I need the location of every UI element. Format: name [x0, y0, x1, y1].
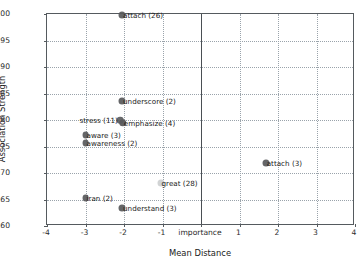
gridline-vertical — [278, 14, 279, 224]
y-tick-label: 1.00 — [0, 9, 10, 18]
data-point-label: awareness (2) — [87, 138, 138, 147]
gridline-vertical — [317, 14, 318, 224]
x-tick-mark — [317, 224, 318, 227]
gridline-vertical — [240, 14, 241, 224]
y-tick-mark — [44, 94, 47, 95]
gridline-horizontal — [47, 173, 353, 174]
x-tick-label: 3 — [313, 228, 318, 237]
data-point-label: attach (3) — [267, 159, 302, 168]
y-tick-mark — [44, 200, 47, 201]
y-tick-mark — [44, 147, 47, 148]
data-point-label: emphasize (4) — [124, 118, 175, 127]
x-tick-mark — [355, 224, 356, 227]
y-tick-label: 0.85 — [0, 88, 10, 97]
x-tick-mark — [240, 224, 241, 227]
data-point-label: great (28) — [162, 178, 198, 187]
x-tick-mark — [86, 224, 87, 227]
x-tick-label: -4 — [42, 228, 50, 237]
x-tick-label: 4 — [352, 228, 357, 237]
x-tick-label: 2 — [275, 228, 280, 237]
data-point-label: iran (2) — [87, 193, 113, 202]
y-tick-label: 0.60 — [0, 221, 10, 230]
x-tick-mark — [201, 224, 202, 227]
plot-area: attach (26)underscore (2)emphasize (4)st… — [46, 13, 354, 225]
x-tick-label: -1 — [158, 228, 166, 237]
y-tick-label: 0.90 — [0, 62, 10, 71]
x-tick-mark — [47, 224, 48, 227]
y-tick-mark — [44, 120, 47, 121]
vertical-reference-line — [201, 14, 202, 224]
y-tick-label: 0.70 — [0, 168, 10, 177]
x-tick-label: 1 — [236, 228, 241, 237]
y-tick-mark — [44, 14, 47, 15]
y-tick-mark — [44, 173, 47, 174]
gridline-horizontal — [47, 94, 353, 95]
y-tick-label: 0.75 — [0, 141, 10, 150]
x-tick-label: -2 — [119, 228, 127, 237]
x-axis-title: Mean Distance — [169, 248, 231, 258]
gridline-horizontal — [47, 41, 353, 42]
x-tick-mark — [124, 224, 125, 227]
y-tick-mark — [44, 67, 47, 68]
x-tick-mark — [278, 224, 279, 227]
y-tick-label: 0.80 — [0, 115, 10, 124]
x-tick-label-origin: importance — [178, 228, 221, 237]
gridline-horizontal — [47, 67, 353, 68]
data-point-label: stress (11) — [80, 116, 118, 125]
y-tick-mark — [44, 41, 47, 42]
x-tick-mark — [163, 224, 164, 227]
data-point-label: attach (26) — [123, 11, 163, 20]
data-point-label: understand (3) — [123, 203, 177, 212]
scatter-plot-figure: Association Strength Mean Distance attac… — [0, 0, 362, 270]
data-point-label: underscore (2) — [123, 97, 176, 106]
y-tick-label: 0.65 — [0, 194, 10, 203]
y-tick-label: 0.95 — [0, 35, 10, 44]
x-tick-label: -3 — [81, 228, 89, 237]
